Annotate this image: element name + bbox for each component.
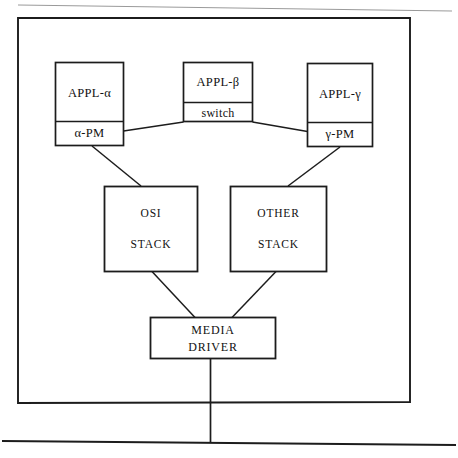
connector-switch-to-gamma-pm (253, 122, 308, 132)
connector-gamma-pm-to-other-stack (288, 147, 340, 186)
appl-alpha-node[interactable] (55, 62, 124, 122)
diagram-canvas: APPL-α α-PM APPL-β switch APPL-γ γ-PM OS… (0, 0, 458, 458)
network-bus-line (2, 441, 456, 445)
connector-other-stack-to-media-driver (232, 272, 276, 318)
scan-artifact-top-line (18, 5, 452, 11)
gamma-pm-node[interactable] (307, 123, 373, 147)
connector-alpha-pm-to-osi-stack (92, 146, 141, 186)
appl-gamma-node[interactable] (307, 63, 373, 123)
media-driver-node[interactable] (150, 317, 276, 359)
alpha-pm-node[interactable] (55, 122, 124, 146)
connector-alpha-pm-to-switch (124, 122, 184, 131)
connector-osi-stack-to-media-driver (152, 272, 195, 318)
appl-beta-node[interactable] (183, 62, 253, 103)
other-stack-node[interactable] (230, 186, 327, 272)
switch-node[interactable] (183, 103, 253, 122)
osi-stack-node[interactable] (104, 186, 198, 272)
